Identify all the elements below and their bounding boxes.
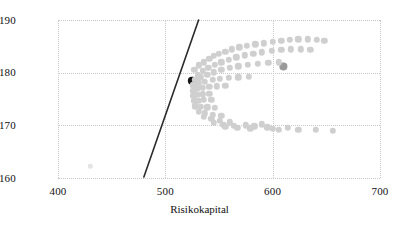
data-point (201, 114, 207, 120)
data-point (210, 69, 216, 75)
data-point (269, 126, 275, 132)
data-point (246, 74, 252, 80)
x-axis-title: Risikokapital (0, 203, 399, 215)
data-point (295, 126, 301, 132)
data-point (313, 37, 319, 43)
data-point (278, 37, 284, 43)
data-point (259, 49, 265, 55)
data-point (288, 46, 294, 52)
data-point (330, 127, 336, 133)
data-point (234, 125, 240, 131)
scatter-chart: 160170180190 400500600700 Risikokapital … (0, 0, 399, 226)
gridline-x-500 (165, 20, 166, 178)
data-point (269, 38, 275, 44)
x-tick-label-500: 500 (157, 186, 174, 197)
data-point (201, 97, 207, 103)
data-point (214, 83, 220, 89)
data-point (312, 127, 318, 133)
x-tick-label-400: 400 (49, 186, 66, 197)
data-point (265, 59, 271, 65)
data-point (208, 97, 214, 103)
gridline-y-190 (58, 20, 380, 21)
data-point (287, 37, 293, 43)
gridline-y-180 (58, 73, 380, 74)
data-point (268, 48, 274, 54)
data-point (222, 83, 228, 89)
data-point (242, 52, 248, 58)
data-point (252, 41, 258, 47)
gridline-x-400 (58, 20, 59, 178)
data-point (284, 125, 290, 131)
data-point (212, 62, 218, 68)
data-point (251, 123, 257, 129)
data-point (321, 38, 327, 44)
data-point (276, 126, 282, 132)
data-point (244, 43, 250, 49)
data-point (278, 47, 284, 53)
data-point (245, 62, 251, 68)
gridline-y-160 (58, 178, 380, 179)
plot-area (58, 20, 380, 178)
data-point (225, 75, 231, 81)
data-point (209, 77, 215, 83)
data-point (217, 76, 223, 82)
x-tick-label-700: 700 (371, 186, 388, 197)
data-point (295, 36, 301, 42)
data-point (307, 47, 313, 53)
data-point (235, 63, 241, 69)
data-point (235, 74, 241, 80)
gridline-x-700 (380, 20, 381, 178)
x-tick-label-600: 600 (264, 186, 281, 197)
data-point (216, 51, 222, 57)
data-point (227, 65, 233, 71)
data-point (261, 40, 267, 46)
data-point (218, 59, 224, 65)
y-tick-label-170: 170 (0, 120, 16, 131)
data-point (236, 44, 242, 50)
data-point (222, 124, 228, 130)
data-point (222, 48, 228, 54)
data-point (206, 84, 212, 90)
y-tick-label-180: 180 (0, 67, 16, 78)
data-point (254, 61, 260, 67)
data-point (225, 56, 231, 62)
data-point (229, 46, 235, 52)
gridline-y-170 (58, 125, 380, 126)
data-point (233, 54, 239, 60)
data-point (88, 164, 92, 168)
data-point (297, 46, 303, 52)
data-point (250, 51, 256, 57)
y-tick-label-160: 160 (0, 173, 16, 184)
y-tick-label-190: 190 (0, 15, 16, 26)
data-point (305, 36, 311, 42)
data-point (212, 105, 218, 111)
